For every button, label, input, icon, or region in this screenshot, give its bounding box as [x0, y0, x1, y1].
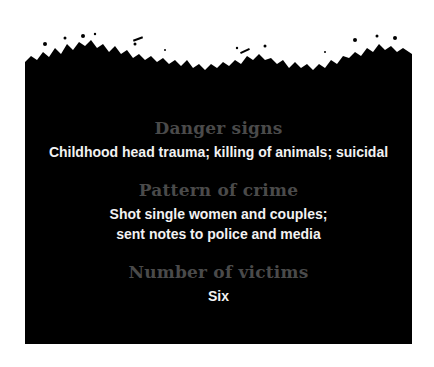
heading-number-of-victims: Number of victims	[25, 262, 412, 282]
grunge-texture-edge	[25, 30, 412, 80]
heading-pattern-of-crime: Pattern of crime	[25, 180, 412, 200]
pattern-of-crime-line-2: sent notes to police and media	[25, 224, 412, 244]
danger-signs-value: Childhood head trauma; killing of animal…	[25, 142, 412, 162]
pattern-of-crime-line-1: Shot single women and couples;	[25, 204, 412, 224]
number-of-victims-value: Six	[25, 286, 412, 306]
info-panel: Danger signs Childhood head trauma; kill…	[25, 30, 412, 344]
heading-danger-signs: Danger signs	[25, 118, 412, 138]
